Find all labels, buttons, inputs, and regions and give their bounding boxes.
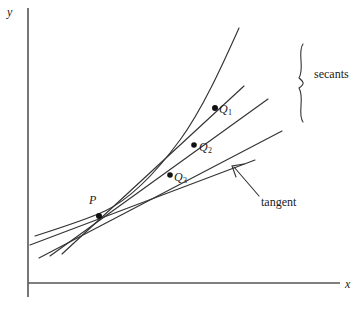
point-Q3-label-subscript: 3 [183,176,187,185]
axes-group [28,8,340,297]
secant-line-q2 [50,99,268,256]
secants-label: secants [314,68,349,80]
marked-points-group [96,105,218,219]
secants-brace-icon [299,44,303,122]
point-Q2-label: Q2 [199,141,212,155]
tangent-leader-line [234,167,259,196]
point-Q3-label-base: Q [174,170,183,184]
point-Q2-label-subscript: 2 [208,146,212,155]
tangent-secant-figure: y x P Q1 Q2 Q3 secants tangent [0,0,363,312]
point-Q3-label: Q3 [174,171,187,185]
secant-line-q3 [39,131,282,258]
tangent-line [30,160,255,245]
tangent-leader-group [232,164,259,196]
point-Q2-label-base: Q [199,140,208,154]
point-Q2-dot [191,142,197,148]
lines-group [30,86,282,258]
x-axis-label: x [345,278,350,290]
point-P-label: P [89,194,96,206]
y-axis-label: y [7,6,12,18]
point-Q1-dot [212,105,218,111]
point-Q1-label: Q1 [219,103,232,117]
point-P-dot [96,213,102,219]
point-Q3-dot [167,172,173,178]
tangent-label: tangent [261,196,296,208]
secant-line-q1 [62,86,244,254]
point-Q1-label-base: Q [219,102,228,116]
point-Q1-label-subscript: 1 [228,108,232,117]
figure-canvas [0,0,363,312]
